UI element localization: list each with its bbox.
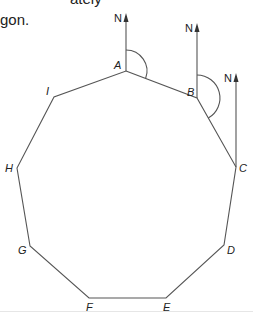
- vertex-label-c: C: [239, 162, 247, 174]
- vertex-label-b: B: [187, 86, 194, 98]
- arrowhead-icon: [124, 13, 129, 22]
- north-label-b: N: [185, 22, 193, 34]
- bottom-divider: [0, 311, 253, 312]
- nonagon-outline: [17, 71, 236, 298]
- vertex-label-d: D: [227, 244, 235, 256]
- vertex-label-i: I: [46, 85, 49, 97]
- north-label-a: N: [114, 12, 122, 24]
- bearing-arc-b: [197, 75, 220, 118]
- arrowhead-icon: [195, 23, 200, 32]
- north-label-c: N: [224, 72, 232, 84]
- vertex-label-h: H: [5, 162, 13, 174]
- arrowhead-icon: [234, 73, 239, 82]
- nonagon-diagram: N N N A B C D E F G H I: [0, 0, 253, 313]
- north-line-c: N: [224, 72, 239, 167]
- vertex-label-g: G: [18, 244, 27, 256]
- vertex-label-a: A: [113, 59, 121, 71]
- bearing-arc-a: [126, 50, 147, 79]
